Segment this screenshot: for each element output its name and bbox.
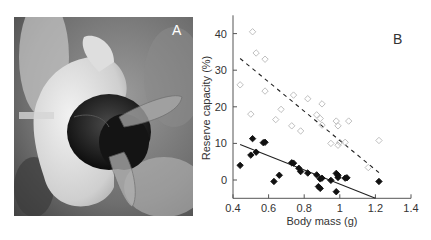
open-diamond-marker [262, 56, 268, 62]
x-tick-label: 1 [337, 202, 343, 214]
bee-photo [14, 17, 193, 216]
chart-axes: 0.40.60.811.21.4010203040 [215, 15, 419, 214]
x-tick-label: 0.8 [297, 202, 312, 214]
scatter-chart: 0.40.60.811.21.4010203040 B Body mass (g… [195, 0, 431, 240]
open-diamond-marker [262, 88, 268, 94]
x-tick-label: 1.4 [403, 202, 418, 214]
open-diamond-marker [376, 137, 382, 143]
y-tick-label: 20 [215, 101, 227, 113]
filled-diamond-marker [376, 178, 382, 184]
open-diamond-marker [289, 123, 295, 129]
x-tick-label: 0.6 [261, 202, 276, 214]
x-tick-label: 1.2 [368, 202, 383, 214]
filled-diamond-marker [271, 178, 277, 184]
y-tick-label: 30 [215, 64, 227, 76]
panel-label-a: A [172, 22, 181, 38]
open-diamond-marker [253, 50, 259, 56]
x-tick-label: 0.4 [225, 202, 240, 214]
open-diamond-marker [273, 116, 279, 122]
open-diamond-marker [346, 118, 352, 124]
open-diamond-marker [319, 122, 325, 128]
open-diamond-marker [305, 96, 311, 102]
filled-diamond-marker [237, 162, 243, 168]
open-diamond-marker [249, 29, 255, 35]
open-diamond-marker [278, 106, 284, 112]
y-tick-label: 40 [215, 28, 227, 40]
chart-canvas: 0.40.60.811.21.4010203040 B Body mass (g… [195, 0, 431, 240]
regression-lines [240, 58, 379, 198]
open-diamond-marker [297, 128, 303, 134]
open-diamond-marker [319, 101, 325, 107]
y-tick-label: 10 [215, 137, 227, 149]
open-diamond-marker [248, 111, 254, 117]
open-diamond-marker [290, 92, 296, 98]
filled-diamond-marker [249, 135, 255, 141]
filled-diamond-marker [328, 177, 334, 183]
data-points [237, 29, 382, 195]
filled-diamond-marker [276, 172, 282, 178]
x-axis-label: Body mass (g) [287, 215, 358, 227]
bee-on-flower-image [14, 17, 193, 216]
open-diamond-marker [237, 82, 243, 88]
y-axis-label: Reserve capacity (%) [200, 56, 212, 161]
y-tick-label: 0 [221, 174, 227, 186]
panel-label-b: B [393, 31, 402, 47]
filled-diamond-marker [333, 189, 339, 195]
open-diamond-marker [328, 140, 334, 146]
